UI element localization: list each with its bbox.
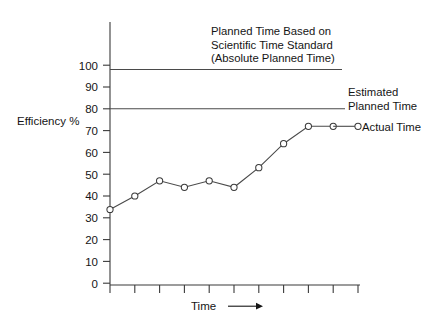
absolute-planned-time-line-3: (Absolute Planned Time) (211, 52, 335, 64)
y-tick-label-10: 10 (85, 256, 98, 268)
estimated-planned-time-annotation: Estimated Planned Time (348, 86, 417, 112)
y-tick-label-100: 100 (79, 60, 98, 72)
estimated-planned-time-line-1: Estimated (348, 86, 398, 98)
chart-canvas: 100 90 80 70 60 50 40 30 20 10 0 (0, 0, 433, 326)
y-tick-label-50: 50 (85, 169, 98, 181)
data-point-3 (157, 178, 163, 184)
data-point-5 (206, 178, 212, 184)
data-point-2 (132, 193, 138, 199)
x-axis-title: Time (191, 300, 216, 312)
y-axis-ticks (103, 65, 110, 283)
data-point-9 (305, 123, 311, 129)
estimated-planned-time-line-2: Planned Time (348, 100, 417, 112)
y-axis-title: Efficiency % (17, 115, 79, 127)
actual-time-label: Actual Time (362, 121, 421, 133)
actual-time-end-marker (355, 123, 361, 129)
data-point-6 (231, 184, 237, 190)
x-axis-arrow-icon (228, 303, 263, 310)
y-tick-label-0: 0 (92, 278, 98, 290)
y-tick-label-70: 70 (85, 125, 98, 137)
y-axis-tick-labels: 100 90 80 70 60 50 40 30 20 10 0 (79, 60, 98, 290)
data-point-8 (281, 141, 287, 147)
y-tick-label-20: 20 (85, 234, 98, 246)
actual-time-series-line (110, 126, 333, 209)
y-tick-label-40: 40 (85, 190, 98, 202)
y-tick-label-80: 80 (85, 103, 98, 115)
absolute-planned-time-annotation: Planned Time Based on Scientific Time St… (211, 25, 335, 64)
efficiency-line-chart: 100 90 80 70 60 50 40 30 20 10 0 (0, 0, 433, 326)
data-point-1 (107, 206, 113, 212)
y-tick-label-60: 60 (85, 147, 98, 159)
data-point-4 (181, 184, 187, 190)
y-tick-label-90: 90 (85, 81, 98, 93)
absolute-planned-time-line-1: Planned Time Based on (211, 25, 331, 37)
x-axis-ticks (110, 285, 358, 293)
actual-time-markers (107, 123, 336, 212)
data-point-7 (256, 165, 262, 171)
absolute-planned-time-line-2: Scientific Time Standard (211, 39, 333, 51)
actual-time-annotation: Actual Time (333, 121, 421, 133)
y-tick-label-30: 30 (85, 212, 98, 224)
